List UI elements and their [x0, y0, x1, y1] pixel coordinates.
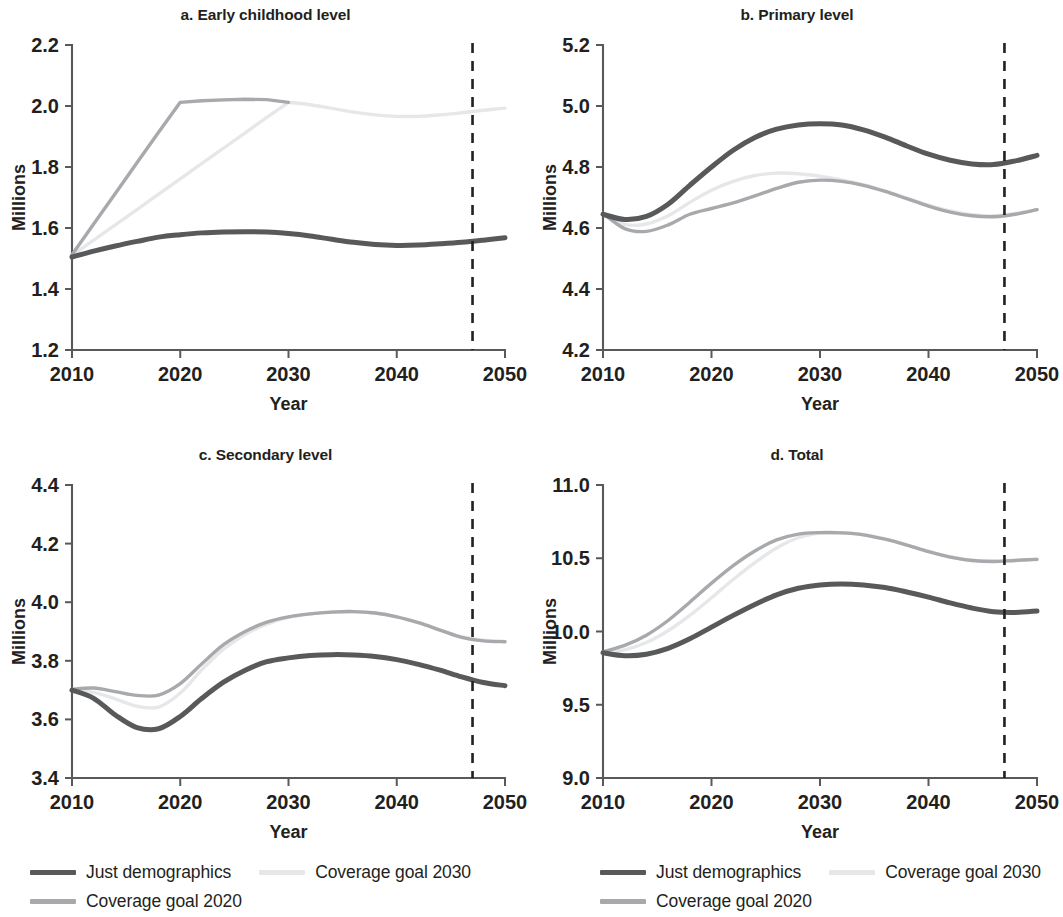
- x-tick-label: 2010: [50, 791, 95, 813]
- x-tick-label: 2040: [375, 791, 420, 813]
- x-tick-label: 2040: [906, 363, 951, 385]
- x-tick-label: 2020: [158, 363, 203, 385]
- series-line: [603, 533, 1037, 652]
- legend-right-entry-coverage-goal-2030[interactable]: Coverage goal 2030: [829, 862, 1041, 883]
- legend-left-row-2: Coverage goal 2020: [30, 887, 530, 916]
- x-axis-title: Year: [269, 394, 307, 414]
- y-tick-label: 4.6: [562, 217, 590, 239]
- x-tick-label: 2010: [50, 363, 95, 385]
- x-tick-label: 2050: [483, 791, 528, 813]
- chart-panel-c: c. Secondary level 3.43.63.84.04.24.4201…: [0, 440, 531, 855]
- y-tick-label: 3.6: [31, 708, 59, 730]
- y-tick-label: 1.4: [31, 278, 60, 300]
- y-tick-label: 4.4: [562, 278, 591, 300]
- y-tick-label: 3.4: [31, 767, 60, 789]
- legend-right-entry-coverage-goal-2020[interactable]: Coverage goal 2020: [600, 891, 812, 912]
- x-tick-label: 2010: [581, 363, 626, 385]
- y-tick-label: 9.5: [562, 694, 590, 716]
- panel-d-svg: 9.09.510.010.511.020102020203020402050Ye…: [531, 440, 1063, 855]
- panel-c-plot: 3.43.63.84.04.24.420102020203020402050Ye…: [9, 474, 527, 842]
- legend-left-entry-coverage-goal-2020[interactable]: Coverage goal 2020: [30, 891, 242, 912]
- y-tick-label: 9.0: [562, 767, 590, 789]
- y-tick-label: 10.5: [551, 547, 590, 569]
- y-tick-label: 4.0: [31, 591, 59, 613]
- legend-swatch-just-demographics-icon: [30, 870, 76, 875]
- x-tick-label: 2050: [1015, 791, 1060, 813]
- chart-panel-a: a. Early childhood level 1.21.41.61.82.0…: [0, 0, 531, 440]
- y-tick-label: 2.2: [31, 34, 59, 56]
- legend-right-row-2: Coverage goal 2020: [600, 887, 1063, 916]
- legend-left-entry-just-demographics[interactable]: Just demographics: [30, 862, 231, 883]
- panel-a-svg: 1.21.41.61.82.02.220102020203020402050Ye…: [0, 0, 531, 440]
- panel-c-svg: 3.43.63.84.04.24.420102020203020402050Ye…: [0, 440, 531, 855]
- panel-b-svg: 4.24.44.64.85.05.220102020203020402050Ye…: [531, 0, 1063, 440]
- legend-left-row-1: Just demographics Coverage goal 2030: [30, 858, 530, 887]
- legend-right-entry-just-demographics[interactable]: Just demographics: [600, 862, 801, 883]
- panel-d-plot: 9.09.510.010.511.020102020203020402050Ye…: [540, 474, 1059, 842]
- x-tick-label: 2040: [375, 363, 420, 385]
- y-axis-title: Millions: [9, 598, 29, 665]
- legend-label-coverage-goal-2030: Coverage goal 2030: [885, 862, 1041, 883]
- x-tick-label: 2050: [1015, 363, 1060, 385]
- y-tick-label: 3.8: [31, 650, 59, 672]
- legend-label-just-demographics: Just demographics: [656, 862, 801, 883]
- legend-swatch-just-demographics-icon: [600, 870, 646, 875]
- y-tick-label: 4.8: [562, 156, 590, 178]
- x-axis-title: Year: [269, 822, 307, 842]
- y-tick-label: 1.2: [31, 339, 59, 361]
- x-tick-label: 2030: [798, 363, 843, 385]
- y-tick-label: 1.8: [31, 156, 59, 178]
- x-tick-label: 2050: [483, 363, 528, 385]
- y-axis-title: Millions: [540, 164, 560, 231]
- chart-panel-b: b. Primary level 4.24.44.64.85.05.220102…: [531, 0, 1063, 440]
- y-axis-title: Millions: [9, 164, 29, 231]
- y-tick-label: 11.0: [552, 474, 590, 496]
- y-tick-label: 2.0: [31, 95, 59, 117]
- y-tick-label: 1.6: [31, 217, 59, 239]
- legend-swatch-coverage-goal-2030-icon: [829, 870, 875, 875]
- panel-a-plot: 1.21.41.61.82.02.220102020203020402050Ye…: [9, 34, 527, 414]
- legend-right-row-1: Just demographics Coverage goal 2030: [600, 858, 1063, 887]
- legend-left-entry-coverage-goal-2030[interactable]: Coverage goal 2030: [259, 862, 471, 883]
- y-axis-title: Millions: [540, 598, 560, 665]
- legend-label-just-demographics: Just demographics: [86, 862, 231, 883]
- panel-b-plot: 4.24.44.64.85.05.220102020203020402050Ye…: [540, 34, 1059, 414]
- x-tick-label: 2020: [689, 363, 734, 385]
- x-tick-label: 2020: [158, 791, 203, 813]
- legend-swatch-coverage-goal-2030-icon: [259, 870, 305, 875]
- y-tick-label: 4.4: [31, 474, 60, 496]
- x-tick-label: 2020: [689, 791, 734, 813]
- legend-swatch-coverage-goal-2020-icon: [30, 899, 76, 904]
- x-tick-label: 2040: [906, 791, 951, 813]
- x-axis-title: Year: [801, 394, 839, 414]
- legend-label-coverage-goal-2030: Coverage goal 2030: [315, 862, 471, 883]
- x-axis-title: Year: [801, 822, 839, 842]
- series-line: [603, 532, 1037, 652]
- legend-label-coverage-goal-2020: Coverage goal 2020: [86, 891, 242, 912]
- legend-label-coverage-goal-2020: Coverage goal 2020: [656, 891, 812, 912]
- series-line: [72, 655, 505, 730]
- legend-left: Just demographics Coverage goal 2030 Cov…: [30, 858, 530, 916]
- series-line: [72, 612, 505, 697]
- x-tick-label: 2030: [266, 363, 311, 385]
- chart-panel-d: d. Total 9.09.510.010.511.02010202020302…: [531, 440, 1063, 855]
- y-tick-label: 5.2: [562, 34, 590, 56]
- legend-swatch-coverage-goal-2020-icon: [600, 899, 646, 904]
- figure-root: a. Early childhood level 1.21.41.61.82.0…: [0, 0, 1063, 917]
- series-line: [72, 232, 505, 257]
- y-tick-label: 4.2: [31, 533, 59, 555]
- x-tick-label: 2030: [798, 791, 843, 813]
- x-tick-label: 2010: [581, 791, 626, 813]
- y-tick-label: 4.2: [562, 339, 590, 361]
- series-line: [603, 124, 1037, 220]
- legend-right: Just demographics Coverage goal 2030 Cov…: [600, 858, 1063, 916]
- x-tick-label: 2030: [266, 791, 311, 813]
- y-tick-label: 5.0: [562, 95, 590, 117]
